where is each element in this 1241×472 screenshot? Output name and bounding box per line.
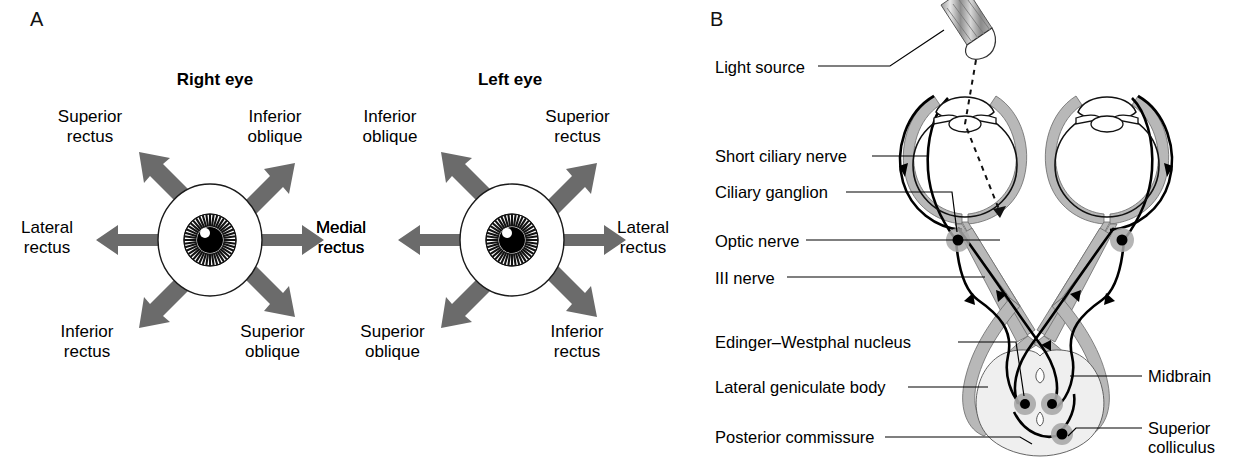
- right-edinger-westphal-nucleus: [1047, 399, 1057, 409]
- arrow-lateral-rectus-left-eye: [554, 225, 626, 255]
- figure-root: A B Right eye Left eye Superior rectus I…: [0, 0, 1241, 472]
- arrow-medial-rectus-right-eye: [252, 225, 324, 255]
- light-source-torch: [941, 0, 995, 59]
- right-ciliary-ribbon: [1052, 228, 1110, 306]
- flow-arrowheads: [899, 163, 1173, 351]
- arrow-lateral-rectus-right-eye: [96, 225, 168, 255]
- arrow-medial-rectus-left-eye: [398, 225, 470, 255]
- right-eye-highlight: [200, 228, 210, 238]
- light-beam-path: [965, 60, 1000, 212]
- left-eye-highlight: [502, 228, 512, 238]
- left-edinger-westphal-nucleus: [1020, 399, 1030, 409]
- midbrain-outline: [976, 350, 1104, 456]
- figure-artwork: [0, 0, 1241, 472]
- leader-light-source: [818, 30, 944, 66]
- right-eye-group: [96, 152, 324, 328]
- arrowhead-right-third: [1104, 293, 1115, 305]
- panel-b-eyes: [913, 97, 1159, 217]
- right-ciliary-ganglion: [1117, 235, 1128, 246]
- left-eye-group: [398, 152, 626, 328]
- panel-b-right-lens: [1091, 116, 1123, 132]
- superior-colliculus-node: [1057, 429, 1068, 440]
- light-beam: [965, 60, 1000, 212]
- panel-b-artwork: [787, 0, 1173, 456]
